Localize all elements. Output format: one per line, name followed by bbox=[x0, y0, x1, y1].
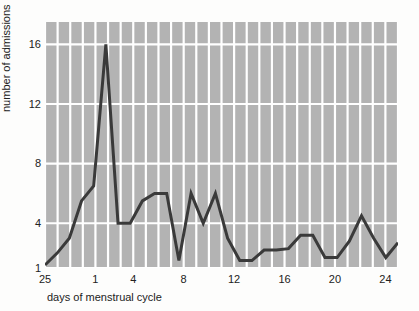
x-tick-label: 12 bbox=[228, 274, 240, 285]
chart-figure: 1481216 2514812162024 days of menstrual … bbox=[0, 0, 419, 311]
y-tick-label: 16 bbox=[7, 39, 41, 50]
plot-area bbox=[45, 22, 398, 268]
y-tick-label: 12 bbox=[7, 99, 41, 110]
x-tick-label: 4 bbox=[130, 274, 136, 285]
x-tick-label: 16 bbox=[278, 274, 290, 285]
x-axis-title: days of menstrual cycle bbox=[47, 291, 162, 303]
x-tick-label: 8 bbox=[181, 274, 187, 285]
x-tick-label: 25 bbox=[39, 274, 51, 285]
y-axis-title: number of admissions bbox=[0, 98, 12, 112]
x-axis-tick-labels: 2514812162024 bbox=[45, 274, 398, 290]
admissions-line-series bbox=[45, 22, 398, 268]
y-tick-label: 8 bbox=[7, 158, 41, 169]
x-tick-label: 1 bbox=[92, 274, 98, 285]
y-tick-label: 1 bbox=[7, 263, 41, 274]
x-tick-label: 20 bbox=[329, 274, 341, 285]
x-tick-label: 24 bbox=[379, 274, 391, 285]
y-tick-label: 4 bbox=[7, 218, 41, 229]
y-axis-title-text: number of admissions bbox=[0, 98, 12, 112]
